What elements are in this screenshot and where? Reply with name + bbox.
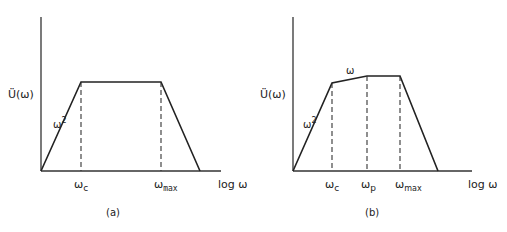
tick-omega-c: ωc — [74, 178, 88, 193]
tick-omega-p: ωp — [361, 178, 376, 193]
slope-label-omega2: ω2 — [53, 116, 66, 130]
caption-b: (b) — [365, 207, 379, 218]
x-axis-label: log ω — [468, 178, 497, 191]
figure-canvas: Ü(ω) ω2 ωc ωmax log ω (a) Ü(ω) ω2 ω ωc ω… — [0, 0, 507, 232]
panel-b: Ü(ω) ω2 ω ωc ωp ωmax log ω (b) — [260, 17, 497, 218]
slope-label-omega: ω — [346, 65, 354, 76]
tick-omega-max: ωmax — [395, 178, 422, 193]
y-axis-label: Ü(ω) — [8, 88, 34, 101]
panel-a: Ü(ω) ω2 ωc ωmax log ω (a) — [8, 17, 247, 218]
y-axis-label: Ü(ω) — [260, 88, 286, 101]
tick-omega-max: ωmax — [154, 178, 178, 193]
response-curve — [41, 82, 200, 171]
x-axis-label: log ω — [218, 178, 247, 191]
slope-label-omega2: ω2 — [303, 116, 316, 130]
tick-omega-c: ωc — [325, 178, 339, 193]
caption-a: (a) — [106, 207, 120, 218]
